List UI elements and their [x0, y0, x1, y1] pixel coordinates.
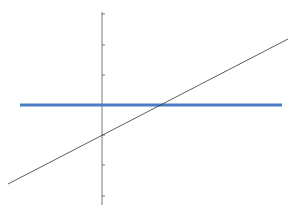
y-axis: [102, 12, 105, 205]
diagonal-line-series: [8, 39, 288, 184]
chart-canvas: [0, 0, 292, 214]
